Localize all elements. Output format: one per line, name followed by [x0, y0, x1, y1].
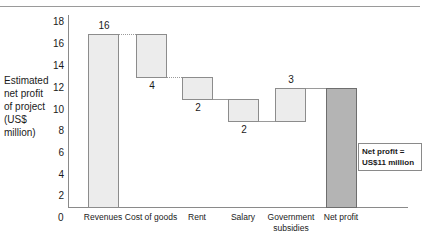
y-tick-8: 8 — [50, 125, 64, 136]
annotation-line: Net profit = — [362, 146, 418, 157]
bar-rent — [182, 77, 213, 100]
y-tick-10: 10 — [50, 104, 64, 115]
value-label-rent: 2 — [183, 102, 213, 113]
bar-net-profit — [326, 88, 357, 208]
top-rule — [0, 6, 420, 7]
value-label-government-subsidies: 3 — [276, 74, 306, 85]
bar-salary — [228, 99, 259, 122]
bar-cost-of-goods — [136, 34, 167, 78]
y-tick-0: 0 — [58, 212, 64, 223]
annotation-line: US$11 million — [362, 157, 418, 168]
y-axis — [68, 15, 69, 208]
value-label-revenues: 16 — [89, 20, 119, 31]
y-tick-12: 12 — [50, 82, 64, 93]
value-label-salary: 2 — [229, 124, 259, 135]
connector-line — [167, 77, 182, 78]
connector-line — [259, 121, 275, 122]
bar-revenues — [88, 34, 119, 208]
x-axis — [68, 207, 408, 208]
y-tick-6: 6 — [50, 147, 64, 158]
y-tick-14: 14 — [50, 60, 64, 71]
connector-line — [213, 99, 228, 100]
value-label-cost-of-goods: 4 — [137, 80, 167, 91]
connector-line — [306, 88, 326, 89]
connector-line — [119, 34, 136, 35]
net-profit-annotation: Net profit = US$11 million — [358, 143, 422, 171]
y-tick-18: 18 — [50, 16, 64, 27]
y-tick-2: 2 — [50, 190, 64, 201]
y-tick-16: 16 — [50, 38, 64, 49]
x-label-net-profit: Net profit — [313, 212, 369, 223]
y-tick-4: 4 — [50, 169, 64, 180]
bar-government-subsidies — [275, 88, 306, 122]
